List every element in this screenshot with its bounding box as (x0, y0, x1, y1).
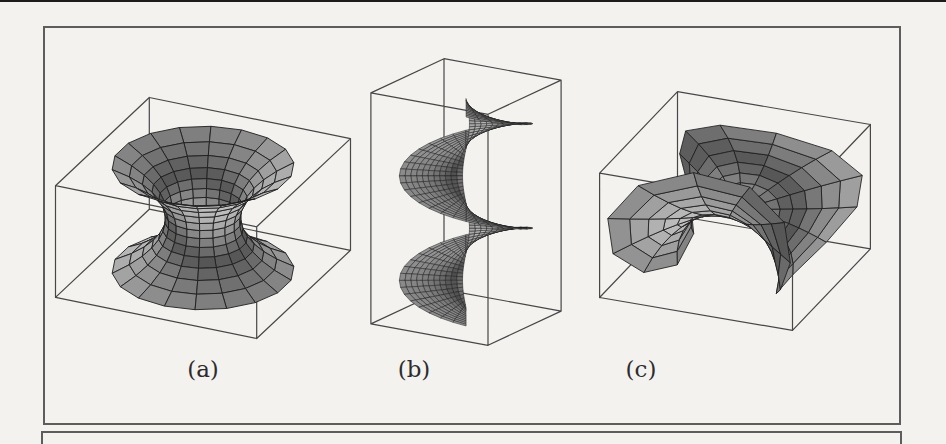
helicoid-plot-svg (366, 50, 578, 350)
enneper-plot-svg (588, 80, 888, 350)
panel-label-b: (b) (372, 355, 456, 383)
panel-label-c: (c) (599, 355, 683, 383)
surface-plot-helicoid (366, 50, 578, 350)
catenoid-plot-svg (50, 76, 360, 366)
panel-label-a: (a) (161, 355, 245, 383)
surface-plot-catenoid (50, 76, 360, 366)
scan-edge-line (0, 0, 946, 2)
adjacent-figure-frame-partial (41, 431, 902, 444)
scanned-figure-page: (a) (b) (c) (0, 0, 946, 444)
surface-plot-enneper (588, 80, 888, 350)
